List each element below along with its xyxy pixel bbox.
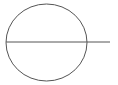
diagram-canvas bbox=[0, 0, 118, 85]
